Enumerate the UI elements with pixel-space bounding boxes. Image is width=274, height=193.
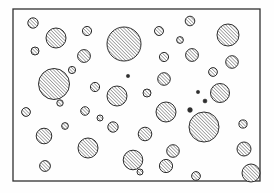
particle-circle — [68, 66, 75, 73]
particle-circle — [177, 37, 184, 44]
particle-circle — [107, 27, 141, 61]
particle-circle — [82, 26, 91, 35]
particle-circle — [211, 84, 230, 103]
particle-circle — [107, 86, 127, 106]
particle-circle — [78, 50, 91, 63]
particle-circle — [159, 52, 168, 61]
particle-circle — [226, 56, 239, 69]
particle-circle — [209, 68, 218, 77]
particle-circle — [239, 120, 247, 128]
particle-circle — [97, 115, 103, 121]
particle-circle — [28, 18, 38, 28]
particle-circle — [36, 128, 52, 144]
particle-circle — [196, 90, 199, 93]
particle-circle — [78, 138, 98, 158]
particle-circle — [62, 123, 69, 130]
particle-circle — [143, 89, 151, 97]
particle-circle — [185, 16, 195, 26]
particle-circle — [217, 24, 239, 46]
particle-circle — [203, 99, 207, 103]
particle-circle — [81, 107, 90, 116]
figure-container: Hatched circle particle distribution — [0, 0, 274, 193]
particle-circle — [137, 169, 143, 175]
particle-circle — [155, 27, 164, 36]
particle-circle — [188, 108, 193, 113]
particle-circle — [46, 28, 66, 48]
particle-circle — [90, 82, 99, 91]
particle-distribution-figure — [0, 0, 274, 193]
particle-circle — [159, 159, 172, 172]
particle-circle — [39, 69, 70, 100]
particle-circle — [123, 150, 143, 170]
particle-circle — [189, 112, 219, 142]
particle-circle — [186, 49, 199, 62]
particle-circle — [31, 47, 39, 55]
particle-circle — [192, 172, 201, 181]
particle-circle — [237, 142, 251, 156]
particle-circle — [158, 73, 171, 86]
particle-circle — [138, 127, 152, 141]
particle-circle — [22, 108, 31, 117]
particle-circle — [242, 164, 260, 182]
particle-circle — [167, 145, 180, 158]
particle-circle — [57, 100, 63, 106]
particle-circle — [40, 161, 51, 172]
particle-circle — [126, 74, 129, 77]
particle-circle — [156, 102, 176, 122]
particle-circle — [108, 122, 118, 132]
